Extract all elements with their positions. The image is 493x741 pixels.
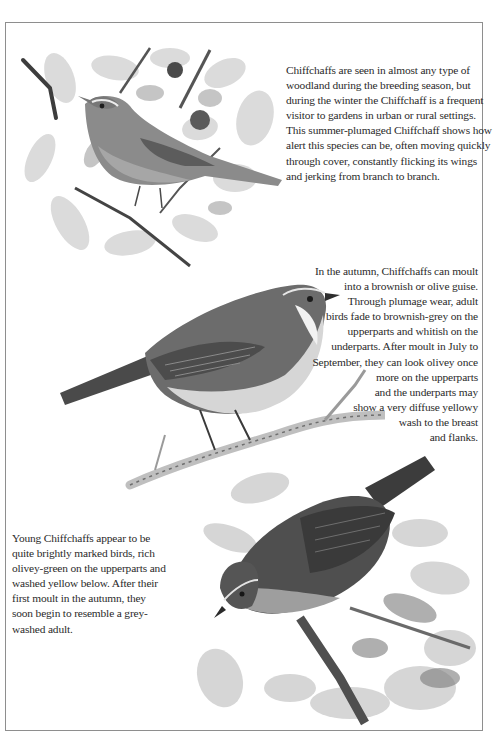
paragraph-line: into a brownish or olive guise.: [300, 279, 478, 294]
paragraph-line: first moult in the autumn, they: [12, 591, 182, 606]
paragraph-line: alert this species can be, often moving …: [286, 138, 481, 153]
paragraph-line: This summer-plumaged Chiffchaff shows ho…: [286, 123, 481, 138]
paragraph-line: Chiffchaffs are seen in almost any type …: [286, 63, 481, 78]
paragraph-line: quite brightly marked birds, rich: [12, 546, 182, 561]
paragraph-line: upperparts and whitish on the: [300, 324, 478, 339]
young-chiffchaff-illustration: [190, 448, 480, 730]
paragraph-line: show a very diffuse yellowy: [300, 400, 478, 415]
paragraph-line: more on the upperparts: [300, 370, 478, 385]
paragraph-line: visitor to gardens in urban or rural set…: [286, 108, 481, 123]
paragraph-line: washed adult.: [12, 622, 182, 637]
paragraph-line: washed yellow below. After their: [12, 576, 182, 591]
paragraph-line: and jerking from branch to branch.: [286, 169, 481, 184]
paragraph-line: through cover, constantly flicking its w…: [286, 154, 481, 169]
paragraph-line: In the autumn, Chiffchaffs can moult: [300, 264, 478, 279]
paragraph-line: Through plumage wear, adult: [300, 294, 478, 309]
autumn-moult-paragraph: In the autumn, Chiffchaffs can moult int…: [300, 264, 478, 445]
paragraph-line: and flanks.: [300, 430, 478, 445]
paragraph-line: and the underparts may: [300, 385, 478, 400]
young-birds-paragraph: Young Chiffchaffs appear to be quite bri…: [12, 531, 182, 637]
paragraph-line: Young Chiffchaffs appear to be: [12, 531, 182, 546]
paragraph-line: September, they can look olivey once: [300, 355, 478, 370]
paragraph-line: wash to the breast: [300, 415, 478, 430]
paragraph-line: soon begin to resemble a grey-: [12, 606, 182, 621]
summer-plumage-paragraph: Chiffchaffs are seen in almost any type …: [286, 63, 481, 184]
summer-chiffchaff-illustration: [20, 38, 288, 270]
paragraph-line: woodland during the breeding season, but: [286, 78, 481, 93]
paragraph-line: underparts. After moult in July to: [300, 339, 478, 354]
paragraph-line: birds fade to brownish-grey on the: [300, 309, 478, 324]
paragraph-line: during the winter the Chiffchaff is a fr…: [286, 93, 481, 108]
paragraph-line: olivey-green on the upperparts and: [12, 561, 182, 576]
